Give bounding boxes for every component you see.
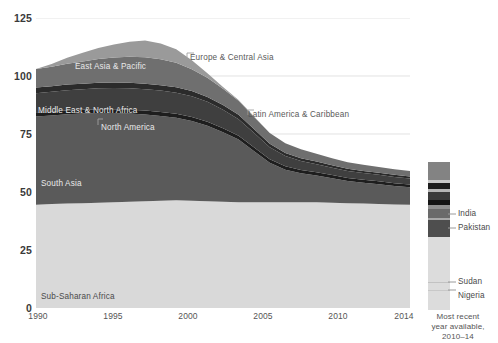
series-label-middle-east-north-africa: Middle East & North Africa bbox=[38, 106, 137, 115]
x-tick-2000: 2000 bbox=[178, 311, 197, 321]
legend-segment-india bbox=[428, 209, 450, 218]
series-label-europe-central-asia: Europe & Central Asia bbox=[190, 53, 274, 62]
legend-caption-line3: 2010–14 bbox=[419, 332, 497, 342]
legend-segment-pakistan bbox=[428, 220, 450, 237]
legend-segment-middle-east-north-africa bbox=[428, 192, 450, 200]
series-label-north-america: North America bbox=[101, 123, 155, 132]
series-label-sub-saharan-africa: Sub-Saharan Africa bbox=[41, 292, 115, 301]
y-tick-100: 100 bbox=[14, 70, 32, 82]
series-label-east-asia-pacific: East Asia & Pacific bbox=[75, 62, 146, 71]
area-bands bbox=[36, 41, 410, 308]
y-tick-75: 75 bbox=[20, 128, 32, 140]
chart-figure: 125 100 75 50 25 0 East Asia & Pacific E… bbox=[0, 0, 498, 343]
legend-segment-east-asia-pacific bbox=[428, 162, 450, 180]
y-axis: 125 100 75 50 25 0 bbox=[0, 0, 32, 343]
legend-bar bbox=[428, 162, 450, 310]
legend-label-pakistan: Pakistan bbox=[458, 223, 490, 232]
legend-divider-nigeria bbox=[428, 290, 450, 291]
legend-caption: Most recent year available, 2010–14 bbox=[419, 312, 497, 342]
x-tick-1995: 1995 bbox=[103, 311, 122, 321]
x-tick-2010: 2010 bbox=[328, 311, 347, 321]
x-tick-1990: 1990 bbox=[28, 311, 47, 321]
series-label-latin-america-caribbean: Latin America & Caribbean bbox=[248, 110, 349, 119]
legend-caption-line2: year available, bbox=[419, 322, 497, 332]
legend-label-india: India bbox=[458, 209, 476, 218]
legend-divider-sudan bbox=[428, 282, 450, 283]
y-tick-50: 50 bbox=[20, 186, 32, 198]
legend-leader-lines bbox=[448, 162, 460, 310]
legend-segment-sub-saharan-africa bbox=[428, 237, 450, 310]
x-tick-2005: 2005 bbox=[253, 311, 272, 321]
legend-label-sudan: Sudan bbox=[458, 277, 482, 286]
y-tick-25: 25 bbox=[20, 244, 32, 256]
series-label-south-asia: South Asia bbox=[41, 179, 82, 188]
legend-label-nigeria: Nigeria bbox=[458, 291, 485, 300]
y-tick-125: 125 bbox=[14, 12, 32, 24]
x-tick-2014: 2014 bbox=[394, 311, 413, 321]
legend-caption-line1: Most recent bbox=[419, 312, 497, 322]
